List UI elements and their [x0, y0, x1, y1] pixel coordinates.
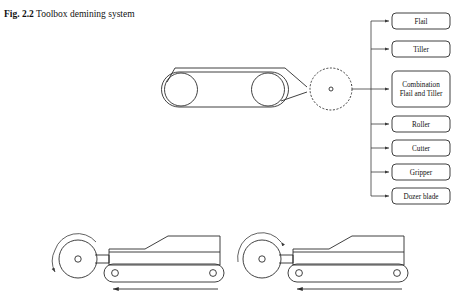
tool-attachment-hub: [329, 87, 333, 91]
carrier-front-wheel: [252, 73, 285, 106]
track-wheel-rear: [296, 270, 303, 277]
operation-view-right: [238, 233, 408, 289]
tool-box-label: Cutter: [412, 145, 431, 153]
toolbox-demining-diagram: Flail Tiller Combination Flail and Tille…: [0, 0, 462, 298]
tool-box-label: Combination: [402, 81, 440, 89]
tool-box-label-line2: Flail and Tiller: [400, 90, 443, 98]
tool-drum: [243, 240, 281, 278]
operation-view-left: [52, 234, 224, 289]
tool-box-roller[interactable]: Roller: [392, 116, 450, 132]
rotation-arrow-counter-clockwise: [52, 234, 96, 272]
tool-box-rect: [392, 71, 450, 107]
tool-attachment-circle: [310, 68, 352, 110]
tool-box-label: Tiller: [413, 46, 429, 54]
figure-root: Fig. 2.2 Toolbox demining system: [0, 0, 462, 298]
tool-box-gripper[interactable]: Gripper: [392, 164, 450, 180]
track-wheel-front: [210, 270, 217, 277]
track-wheel-rear: [112, 270, 119, 277]
vehicle-track-outline: [288, 264, 408, 282]
carrier-track-outline: [162, 72, 289, 107]
tool-drum: [59, 240, 97, 278]
tool-box-flail[interactable]: Flail: [392, 13, 450, 29]
tool-box-dozer-blade[interactable]: Dozer blade: [392, 188, 450, 204]
track-wheel-front: [394, 270, 401, 277]
tool-box-label: Roller: [412, 121, 431, 129]
carrier-vehicle-group: [162, 68, 352, 110]
tool-connector-tree: [352, 21, 389, 196]
tool-box-combination[interactable]: Combination Flail and Tiller: [392, 71, 450, 107]
tool-drum-hub: [75, 256, 81, 262]
tool-box-label: Flail: [414, 18, 427, 26]
tool-box-label: Gripper: [410, 169, 433, 177]
carrier-body-deck: [167, 68, 307, 87]
carrier-tool-arm: [281, 92, 307, 101]
vehicle-body: [109, 236, 220, 265]
vehicle-body: [293, 236, 404, 265]
tool-drum-hub: [259, 256, 265, 262]
vehicle-track-outline: [104, 264, 224, 282]
tool-box-tiller[interactable]: Tiller: [392, 41, 450, 57]
tool-box-cutter[interactable]: Cutter: [392, 140, 450, 156]
tool-box-label: Dozer blade: [404, 193, 439, 201]
